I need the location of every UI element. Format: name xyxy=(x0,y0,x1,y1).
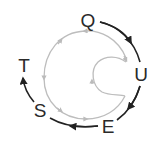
spiral-outer-loop xyxy=(44,31,126,119)
arrow-q-to-u xyxy=(100,22,140,62)
letter-t: T xyxy=(18,56,30,75)
spiral-inner-curl xyxy=(93,57,126,96)
letter-q: Q xyxy=(81,11,96,30)
spiral xyxy=(44,31,126,119)
letter-e: E xyxy=(102,117,115,136)
letter-s: S xyxy=(34,101,47,120)
quest-cycle-diagram: Q U E S T xyxy=(0,0,158,145)
arrow-s-to-t xyxy=(23,78,34,102)
letter-u: U xyxy=(134,65,148,84)
